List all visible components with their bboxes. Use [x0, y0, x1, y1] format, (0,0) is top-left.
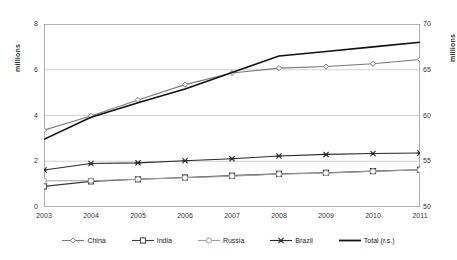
legend-marker-cross-icon [270, 236, 292, 245]
x-tick-2011: 2011 [402, 212, 438, 219]
x-tick-2003: 2003 [26, 212, 62, 219]
legend-item-india[interactable]: India [132, 236, 172, 245]
legend-marker-circle-icon [198, 236, 220, 245]
x-tick-2006: 2006 [167, 212, 203, 219]
legend-label: Russia [223, 237, 244, 244]
y-tick-right: 60 [423, 112, 441, 119]
x-tick-2004: 2004 [73, 212, 109, 219]
y-tick-left: 4 [22, 112, 38, 119]
legend-label: Brazil [295, 237, 313, 244]
y-tick-left: 0 [22, 203, 38, 210]
legend-item-china[interactable]: China [62, 236, 105, 245]
chart-container: millions millions 02468 5055606570 20032… [0, 0, 457, 260]
x-tick-2010: 2010 [355, 212, 391, 219]
plot-area [44, 24, 420, 207]
y-tick-right: 70 [423, 20, 441, 27]
legend-marker-diamond-icon [62, 236, 84, 245]
y-tick-left: 2 [22, 157, 38, 164]
y-tick-left: 6 [22, 66, 38, 73]
y-axis-label-right: millions [449, 34, 456, 62]
x-tick-2007: 2007 [214, 212, 250, 219]
legend-label: Total (r.s.) [364, 237, 395, 244]
legend-item-total-r-s[interactable]: Total (r.s.) [339, 236, 395, 245]
y-tick-right: 50 [423, 203, 441, 210]
legend-label: China [87, 237, 105, 244]
x-tick-2009: 2009 [308, 212, 344, 219]
chart-legend: ChinaIndiaRussiaBrazilTotal (r.s.) [0, 236, 457, 245]
y-axis-label-left: millions [14, 44, 21, 72]
legend-item-russia[interactable]: Russia [198, 236, 244, 245]
y-tick-left: 8 [22, 20, 38, 27]
y-tick-right: 55 [423, 157, 441, 164]
legend-item-brazil[interactable]: Brazil [270, 236, 313, 245]
x-axis-ticks: 200320042005200620072008200920102011 [0, 212, 457, 226]
legend-label: India [157, 237, 172, 244]
legend-marker-square-icon [132, 236, 154, 245]
y-tick-right: 65 [423, 66, 441, 73]
legend-marker-line-icon [339, 236, 361, 245]
x-tick-2005: 2005 [120, 212, 156, 219]
x-tick-2008: 2008 [261, 212, 297, 219]
